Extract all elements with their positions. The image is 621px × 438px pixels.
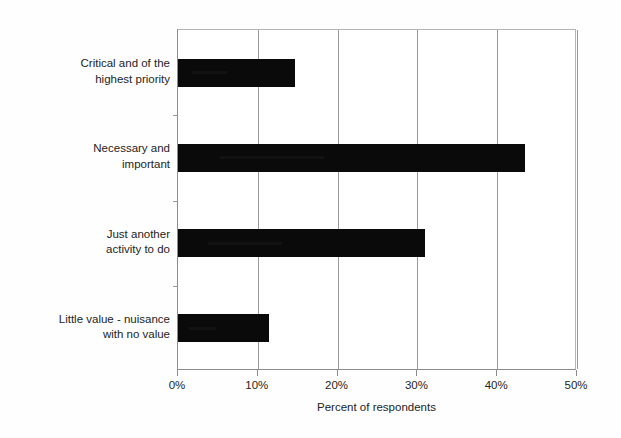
x-tick-mark — [496, 370, 497, 376]
category-label: Just anotheractivity to do — [18, 227, 170, 258]
x-tick-mark — [257, 370, 258, 376]
value-axis: 0%10%20%30%40%50% — [177, 370, 576, 400]
gridline-40% — [497, 30, 498, 369]
category-label-line: with no value — [18, 327, 170, 343]
category-tick — [173, 201, 178, 202]
category-axis-labels: Critical and of thehighest priorityNeces… — [18, 29, 170, 370]
x-tick-label: 40% — [466, 379, 526, 391]
category-label: Critical and of thehighest priority — [18, 56, 170, 87]
category-tick — [173, 115, 178, 116]
category-label-line: activity to do — [18, 242, 170, 258]
category-label-line: Just another — [18, 227, 170, 243]
x-tick-mark — [576, 370, 577, 376]
x-tick-label: 0% — [147, 379, 207, 391]
bar — [178, 229, 425, 257]
gridline-20% — [338, 30, 339, 369]
category-label-line: Necessary and — [18, 141, 170, 157]
x-tick-mark — [416, 370, 417, 376]
category-label-line: Little value - nuisance — [18, 312, 170, 328]
plot-area — [177, 29, 576, 370]
bar — [178, 59, 295, 87]
x-tick-mark — [337, 370, 338, 376]
bar — [178, 144, 525, 172]
x-tick-label: 50% — [546, 379, 606, 391]
x-tick-mark — [177, 370, 178, 376]
bar — [178, 314, 269, 342]
x-tick-label: 10% — [227, 379, 287, 391]
category-label-line: important — [18, 157, 170, 173]
category-tick — [173, 286, 178, 287]
category-label-line: Critical and of the — [18, 56, 170, 72]
category-label: Little value - nuisancewith no value — [18, 312, 170, 343]
x-axis-title: Percent of respondents — [177, 401, 576, 413]
category-label: Necessary andimportant — [18, 141, 170, 172]
gridline-30% — [417, 30, 418, 369]
bar-chart-figure: Critical and of thehighest priorityNeces… — [0, 0, 621, 438]
category-label-line: highest priority — [18, 72, 170, 88]
x-tick-label: 20% — [307, 379, 367, 391]
gridline-50% — [577, 30, 578, 369]
x-tick-label: 30% — [386, 379, 446, 391]
